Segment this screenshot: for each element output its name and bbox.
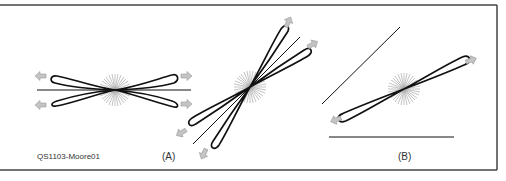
arrow-left-icon [174, 126, 188, 139]
antenna-pattern-diagram: QS1103-Moore01 (A) (B) [0, 0, 506, 181]
panel-b-label: (B) [398, 151, 411, 162]
figure-id-label: QS1103-Moore01 [37, 152, 101, 161]
arrow-right-upper-icon [181, 72, 192, 81]
panel-a-label: (A) [162, 151, 175, 162]
panel-a-horizontal-pattern [35, 72, 192, 110]
arrow-left-lower-icon [35, 101, 46, 110]
arrow-left-upper-icon [35, 72, 46, 81]
panel-a-tilted-pattern [174, 15, 320, 161]
arrow-lower-icon [197, 147, 210, 161]
arrow-right-lower-icon [181, 100, 192, 109]
panel-b-pattern [322, 27, 478, 137]
